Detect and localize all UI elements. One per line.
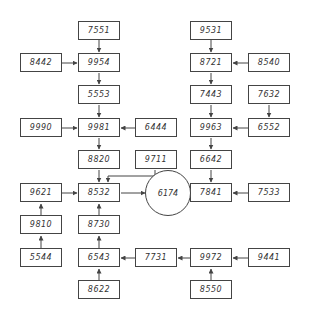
node-5544: 5544 (20, 248, 62, 267)
node-9810: 9810 (20, 215, 62, 234)
node-6543: 6543 (78, 248, 120, 267)
node-8550: 8550 (190, 280, 232, 299)
node-9981: 9981 (78, 118, 120, 137)
node-8540: 8540 (248, 53, 290, 72)
node-9972: 9972 (190, 248, 232, 267)
node-9531: 9531 (190, 21, 232, 40)
node-6642: 6642 (190, 150, 232, 169)
node-9990: 9990 (20, 118, 62, 137)
node-9621: 9621 (20, 183, 62, 202)
node-9441: 9441 (248, 248, 290, 267)
node-8721: 8721 (190, 53, 232, 72)
node-8820: 8820 (78, 150, 120, 169)
node-8442: 8442 (20, 53, 62, 72)
node-7731: 7731 (135, 248, 177, 267)
node-5553: 5553 (78, 85, 120, 104)
node-9954: 9954 (78, 53, 120, 72)
node-6174-circle: 6174 (145, 170, 191, 216)
node-9711: 9711 (135, 150, 177, 169)
node-7533: 7533 (248, 183, 290, 202)
node-6444: 6444 (135, 118, 177, 137)
node-9963: 9963 (190, 118, 232, 137)
node-8730: 8730 (78, 215, 120, 234)
node-7551: 7551 (78, 21, 120, 40)
node-7443: 7443 (190, 85, 232, 104)
node-8532: 8532 (78, 183, 120, 202)
node-7632: 7632 (248, 85, 290, 104)
node-7841: 7841 (190, 183, 232, 202)
node-6552: 6552 (248, 118, 290, 137)
node-8622: 8622 (78, 280, 120, 299)
